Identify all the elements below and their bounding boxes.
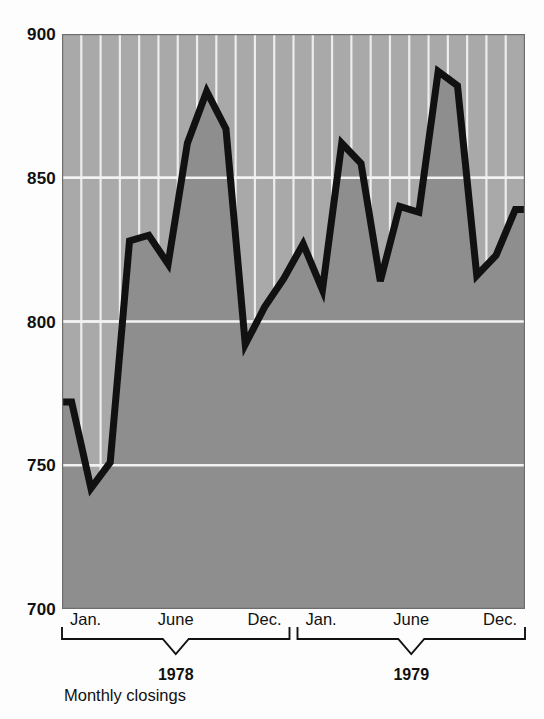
year-bracket [298, 627, 526, 654]
x-axis-month-label: Dec. [248, 611, 282, 628]
x-axis-month-label: Dec. [483, 611, 517, 628]
year-bracket [62, 627, 290, 654]
x-axis-month-label: June [158, 611, 194, 628]
x-axis-month-label: Jan. [306, 611, 337, 628]
chart-root: 900850800750700 Jan.JuneDec.1978Jan.June… [0, 0, 544, 719]
plot-area [62, 34, 525, 609]
y-axis-tick-label: 800 [4, 314, 56, 331]
y-axis-tick-label: 850 [4, 170, 56, 187]
x-axis-month-label: June [393, 611, 429, 628]
x-axis-year-label: 1978 [158, 667, 194, 683]
x-axis-year-label: 1979 [393, 667, 429, 683]
x-axis-month-label: Jan. [70, 611, 101, 628]
plot-svg [62, 34, 525, 609]
y-axis-tick-label: 900 [4, 26, 56, 43]
chart-caption: Monthly closings [64, 687, 186, 704]
y-axis-tick-label: 750 [4, 457, 56, 474]
